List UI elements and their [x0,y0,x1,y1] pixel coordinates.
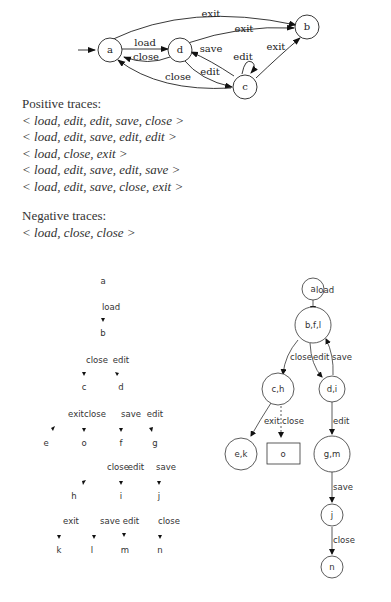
tree-node: g [152,438,157,448]
tree-node: f [120,438,124,448]
tree-edge-label: close [158,516,180,526]
tree-node: h [71,491,76,501]
edge-label-save: save [333,482,353,492]
merged-node-label: j [330,510,333,520]
tree-node: l [91,545,93,555]
tree-node: b [100,328,105,338]
bottom-diagrams: a b c d e o f g h i j k l m n load close… [0,0,391,602]
tree-node: o [81,438,86,448]
edge-label-load: load [316,285,334,295]
merged-node-label: d,i [327,384,337,394]
edge-label-edit: edit [333,416,350,426]
tree-edge-label: save [156,462,176,472]
tree-edge-label: close [107,462,129,472]
merged-node-label: n [329,562,334,572]
edge-label-save: save [332,352,352,362]
merged-node-label: o [280,449,285,459]
merged-node-label: a [310,284,315,294]
tree-node: d [118,382,123,392]
tree-edge-label: save [100,516,120,526]
tree-node: k [57,545,62,555]
tree-edge-label: close [84,409,106,419]
tree-edge-label: save [121,409,141,419]
tree-node: c [82,382,87,392]
edge-label-exit: exit [264,416,280,426]
tree-node: i [120,491,122,501]
edge-label-edit: edit [313,352,330,362]
tree-edge-label: edit [123,516,140,526]
merged-node-label: g,m [324,449,340,459]
merged-state-machine: a b,f,l c,h d,i e,k o g,m j n load close… [225,278,355,578]
edge-label-close: close [333,535,355,545]
tree-node: n [157,545,162,555]
tree-edge-label: close [86,355,108,365]
tree-edge-label: edit [147,409,164,419]
tree-node: m [121,545,129,555]
edge-label-close: close [290,352,312,362]
tree-node: a [100,276,105,286]
tree-edge-label: edit [113,355,130,365]
edge-label-close: close [282,416,304,426]
merged-node-label: c,h [272,384,285,394]
merged-node-label: e,k [235,449,248,459]
prefix-tree: a b c d e o f g h i j k l m n load close… [43,276,180,555]
tree-node: j [157,491,160,501]
tree-edge-label: edit [128,462,145,472]
tree-edge-label: exit [68,409,84,419]
merged-node-label: b,f,l [305,320,321,330]
tree-edge-label: exit [63,516,79,526]
tree-node: e [43,438,48,448]
tree-edge-label: load [102,302,120,312]
